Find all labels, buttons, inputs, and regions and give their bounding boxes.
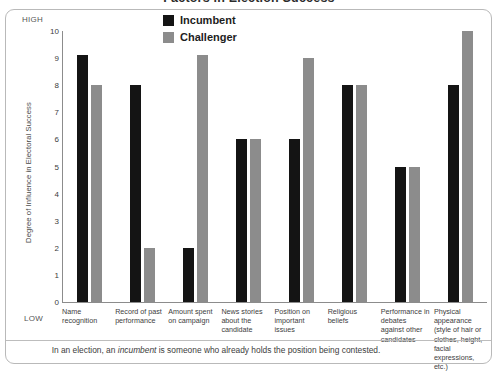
bar-incumbent [448,85,459,302]
bar-challenger [144,248,155,302]
x-axis-label: Name recognition [62,307,115,325]
bar-challenger [303,58,314,302]
y-axis-tick: 8 [55,81,59,90]
x-axis-label: Amount spent on campaign [168,307,221,325]
y-axis-tick: 5 [55,162,59,171]
legend-swatch-incumbent-icon [163,15,174,26]
footnote: In an election, an incumbent is someone … [6,345,426,355]
footnote-divider [6,340,491,341]
bar-incumbent [236,139,247,302]
bar-challenger [356,85,367,302]
bar-incumbent [342,85,353,302]
y-axis-tick: 6 [55,135,59,144]
bar-group [116,31,169,302]
bar-group [434,31,487,302]
y-axis-tick: 7 [55,108,59,117]
bar-challenger [91,85,102,302]
bar-group [275,31,328,302]
bar-incumbent [77,55,88,302]
footnote-after: is someone who already holds the positio… [156,345,380,355]
y-axis-tick: 9 [55,54,59,63]
bar-incumbent [183,248,194,302]
y-axis-tick: 0 [55,298,59,307]
y-axis-tick: 3 [55,216,59,225]
x-axis-label: Religious beliefs [328,307,381,325]
y-axis-tick: 4 [55,189,59,198]
legend-entry-incumbent: Incumbent [163,14,237,26]
legend-label-incumbent: Incumbent [180,14,236,26]
bar-group [381,31,434,302]
footnote-before: In an election, an [52,345,118,355]
bar-group [63,31,116,302]
y-axis-tick: 1 [55,270,59,279]
y-axis-tick: 2 [55,243,59,252]
x-axis-label: News stories about the candidate [221,307,274,335]
bar-challenger [409,167,420,303]
bar-incumbent [289,139,300,302]
bar-incumbent [395,167,406,303]
x-axis-label: Record of past performance [115,307,168,325]
chart-title: Factors in Election Success [0,0,498,5]
y-axis-tick: 10 [50,27,59,36]
x-axis-label: Physical appearance (style of hair or cl… [434,307,487,371]
plot-area: 012345678910 [62,31,487,303]
x-axis-label: Position on important issues [275,307,328,335]
bar-groups [63,31,487,302]
bar-group [222,31,275,302]
x-axis-labels: Name recognitionRecord of past performan… [62,307,487,371]
bar-challenger [197,55,208,302]
x-axis-label: Performance in debates against other can… [381,307,434,344]
axis-high-label: HIGH [22,15,43,24]
bar-incumbent [130,85,141,302]
bar-group [328,31,381,302]
bar-group [169,31,222,302]
bar-challenger [462,31,473,302]
footnote-emphasis: incumbent [118,345,157,355]
axis-low-label: LOW [24,314,43,323]
y-axis-title: Degree of Influence in Electoral Success [24,68,33,278]
bar-challenger [250,139,261,302]
